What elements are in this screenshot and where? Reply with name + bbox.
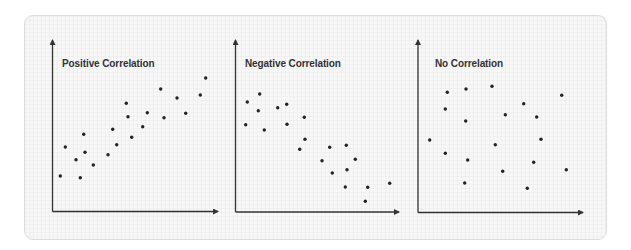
data-point: [328, 146, 331, 149]
data-point: [490, 85, 493, 88]
data-point: [464, 119, 467, 122]
data-point: [82, 133, 85, 136]
data-point: [92, 163, 95, 166]
data-point: [522, 102, 525, 105]
data-point: [320, 159, 323, 162]
data-point: [246, 100, 249, 103]
data-point: [366, 186, 369, 189]
data-point: [244, 123, 247, 126]
data-point: [83, 151, 86, 154]
data-point: [79, 176, 82, 179]
data-point: [162, 116, 165, 119]
data-point: [501, 170, 504, 173]
data-point: [184, 112, 187, 115]
data-point: [446, 91, 449, 94]
data-point: [428, 138, 431, 141]
data-point: [146, 111, 149, 114]
data-point: [126, 115, 129, 118]
data-point: [199, 93, 202, 96]
data-point: [364, 200, 367, 203]
data-point: [115, 143, 118, 146]
data-point: [535, 115, 538, 118]
data-point: [285, 103, 288, 106]
data-point: [504, 113, 507, 116]
data-point: [258, 92, 261, 95]
data-point: [141, 125, 144, 128]
data-point: [466, 158, 469, 161]
data-point: [106, 153, 109, 156]
data-point: [344, 185, 347, 188]
data-point: [539, 138, 542, 141]
data-point: [331, 171, 334, 174]
data-point: [532, 161, 535, 164]
scatter-plots: [0, 0, 631, 250]
data-point: [159, 87, 162, 90]
data-point: [285, 123, 288, 126]
data-point: [263, 128, 266, 131]
data-point: [345, 168, 348, 171]
data-point: [345, 144, 348, 147]
data-point: [444, 152, 447, 155]
data-point: [204, 76, 207, 79]
data-point: [130, 136, 133, 139]
data-point: [565, 168, 568, 171]
data-point: [388, 182, 391, 185]
data-point: [303, 138, 306, 141]
data-point: [463, 181, 466, 184]
panel-title-positive: Positive Correlation: [62, 58, 154, 69]
data-point: [125, 102, 128, 105]
data-point: [494, 143, 497, 146]
data-point: [298, 148, 301, 151]
data-point: [257, 109, 260, 112]
panel-title-none: No Correlation: [435, 58, 503, 69]
data-point: [74, 158, 77, 161]
panel-title-negative: Negative Correlation: [245, 58, 341, 69]
data-point: [560, 94, 563, 97]
data-point: [175, 96, 178, 99]
data-point: [354, 158, 357, 161]
data-point: [303, 116, 306, 119]
data-point: [464, 87, 467, 90]
data-point: [111, 128, 114, 131]
data-point: [276, 106, 279, 109]
data-point: [444, 107, 447, 110]
data-point: [59, 174, 62, 177]
data-point: [64, 145, 67, 148]
data-point: [526, 187, 529, 190]
